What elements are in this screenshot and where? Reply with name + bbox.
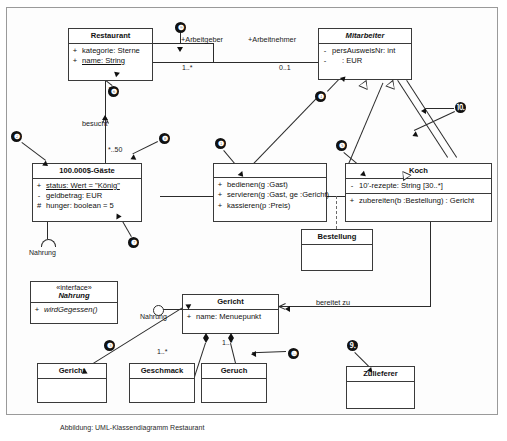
- assoc-line-bereitetzu-v: [430, 222, 431, 306]
- marker-12: ⒑: [455, 102, 466, 113]
- class-title-bestellung: Bestellung: [302, 230, 372, 244]
- attribute-row: - 10'-rezepte: String [30..*]: [349, 181, 489, 191]
- attribute-text: : EUR: [332, 56, 409, 66]
- marker-11: ⒐: [347, 340, 358, 351]
- attribute-row: + kategorie: Sterne: [72, 46, 150, 56]
- attribute-text: geldbetrag: EUR: [46, 191, 139, 201]
- attribute-row: - : EUR: [322, 56, 409, 66]
- class-box-geschmack[interactable]: Geschmack: [129, 363, 195, 403]
- class-title-geschmack: Geschmack: [130, 364, 194, 378]
- class-box-gericht-main[interactable]: Gericht + name: Menuepunkt: [182, 294, 279, 334]
- visibility-marker: +: [217, 180, 223, 190]
- visibility-marker: -: [36, 191, 42, 201]
- visibility-marker: +: [72, 46, 78, 56]
- class-attributes-koch: - 10'-rezepte: String [30..*]: [346, 178, 491, 193]
- visibility-marker: -: [322, 56, 328, 66]
- assoc-class-link-bestellung: [336, 196, 337, 229]
- class-attributes-mitarbeiter: - persAusweisNr: int - : EUR: [319, 43, 411, 69]
- attribute-text: kategorie: Sterne: [82, 46, 150, 56]
- assoc-line-bereitetzu-h: [279, 306, 431, 307]
- marker-12-leader-a: [426, 108, 454, 109]
- class-title-gaeste: 100.000$-Gäste: [33, 164, 141, 178]
- class-title-mitarbeiter: Mitarbeiter: [319, 29, 411, 43]
- attribute-row: + name: String: [72, 56, 150, 66]
- class-attributes-gaeste: + status: Wert = "König" - geldbetrag: E…: [33, 178, 141, 214]
- class-box-mitarbeiter[interactable]: Mitarbeiter - persAusweisNr: int - : EUR: [318, 28, 412, 80]
- marker-10-arrow: [251, 351, 256, 357]
- attribute-row: - geldbetrag: EUR: [36, 191, 139, 201]
- assoc-line-gaeste-kellner: [160, 196, 213, 197]
- operation-row: + kassieren(p :Preis): [217, 201, 324, 211]
- multiplicity-arbeitnehmer: 0..1: [279, 64, 291, 71]
- marker-10: ❿: [288, 348, 299, 359]
- class-box-bestellung[interactable]: Bestellung: [301, 229, 373, 271]
- visibility-marker: +: [217, 190, 223, 200]
- attribute-text: 10'-rezepte: String [30..*]: [359, 181, 489, 191]
- iface-stalk-required: [47, 222, 48, 239]
- class-body-geruch: [202, 378, 266, 401]
- class-box-nahrung-interface[interactable]: «interface» Nahrung + wirdGegessen(): [30, 281, 118, 324]
- visibility-marker: +: [186, 312, 192, 322]
- visibility-marker: +: [217, 201, 223, 211]
- marker-7: ❼: [128, 237, 139, 248]
- class-attributes-gericht-main: + name: Menuepunkt: [183, 309, 278, 324]
- multiplicity-arbeitgeber: 1..*: [182, 64, 193, 71]
- marker-3: ❸: [104, 340, 115, 351]
- marker-9: ❾: [175, 22, 186, 33]
- ball-icon-nahrung: [153, 305, 164, 316]
- navarrow-besucht: [102, 115, 108, 120]
- figure-caption: Abbildung: UML-Klassendiagramm Restauran…: [60, 424, 204, 431]
- marker-5: ❺: [336, 140, 347, 151]
- class-body-zulieferer: [347, 381, 414, 406]
- attribute-text: name: String: [82, 56, 150, 66]
- class-name-nahrung: Nahrung: [33, 292, 115, 300]
- visibility-marker: +: [72, 56, 78, 66]
- operation-text: zubereiten(b :Bestellung) : Gericht: [359, 196, 489, 206]
- class-title-restaurant: Restaurant: [69, 29, 152, 43]
- class-box-restaurant[interactable]: Restaurant + kategorie: Sterne + name: S…: [68, 28, 153, 81]
- class-box-gaeste[interactable]: 100.000$-Gäste + status: Wert = "König" …: [32, 163, 142, 222]
- visibility-marker: -: [349, 181, 355, 191]
- attribute-row: - persAusweisNr: int: [322, 46, 409, 56]
- operation-row: + zubereiten(b :Bestellung) : Gericht: [349, 196, 489, 206]
- class-operations-nahrung-interface: + wirdGegessen(): [31, 302, 117, 317]
- interface-label-nahrung-required: Nahrung: [29, 249, 56, 256]
- attribute-text: hunger: boolean = 5: [46, 201, 139, 211]
- class-body-geschmack: [130, 378, 194, 401]
- class-box-gericht-duplicate[interactable]: Gericht: [37, 363, 107, 403]
- class-box-koch[interactable]: Koch - 10'-rezepte: String [30..*] + zub…: [345, 163, 492, 222]
- marker-8: ❽: [159, 133, 170, 144]
- operation-text: wirdGegessen(): [44, 305, 115, 315]
- assoc-line-arbeitnehmer: [152, 62, 318, 63]
- class-box-geruch[interactable]: Geruch: [201, 363, 267, 403]
- attribute-row: + name: Menuepunkt: [186, 312, 276, 322]
- operation-row: + bedienen(g :Gast): [217, 180, 324, 190]
- attribute-row: # hunger: boolean = 5: [36, 201, 139, 211]
- assoc-line-employment-drop: [213, 43, 214, 62]
- operation-text: kassieren(p :Preis): [227, 201, 324, 211]
- class-box-kellner[interactable]: + bedienen(g :Gast) + servieren(g :Gast,…: [213, 163, 327, 222]
- visibility-marker: +: [36, 181, 42, 191]
- operation-row: + servieren(g :Gast, ge :Gericht): [217, 190, 324, 200]
- attribute-text: name: Menuepunkt: [196, 312, 276, 322]
- visibility-marker: +: [34, 305, 40, 315]
- class-title-zulieferer: Zulieferer: [347, 367, 414, 381]
- class-title-geruch: Geruch: [202, 364, 266, 378]
- navarrow-bereitetzu: [285, 306, 290, 312]
- class-operations-kellner: + bedienen(g :Gast) + servieren(g :Gast,…: [214, 177, 326, 213]
- class-body-gericht-duplicate: [38, 378, 106, 401]
- attribute-text: status: Wert = "König": [46, 181, 139, 191]
- socket-icon-nahrung: [41, 239, 56, 247]
- role-label-arbeitgeber: +Arbeitgeber: [181, 35, 223, 44]
- operation-text: servieren(g :Gast, ge :Gericht): [227, 190, 329, 200]
- operation-text: bedienen(g :Gast): [227, 180, 324, 190]
- class-box-zulieferer[interactable]: Zulieferer: [346, 366, 415, 409]
- visibility-marker: #: [36, 201, 42, 211]
- class-title-koch: Koch: [346, 164, 491, 178]
- multiplicity-gaeste-besucht: *..50: [108, 146, 122, 153]
- marker-4: ❹: [315, 91, 326, 102]
- class-title-kellner: [214, 164, 326, 177]
- association-name-bereitet-zu: bereitet zu: [316, 298, 350, 307]
- marker-9-arrow: [177, 47, 183, 52]
- visibility-marker: +: [349, 196, 355, 206]
